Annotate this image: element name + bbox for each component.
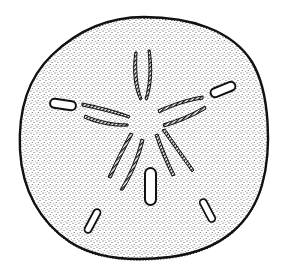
sand-dollar-illustration — [0, 0, 288, 278]
lunule-bottom-center — [145, 168, 156, 205]
sand-dollar-drawing — [0, 0, 288, 278]
